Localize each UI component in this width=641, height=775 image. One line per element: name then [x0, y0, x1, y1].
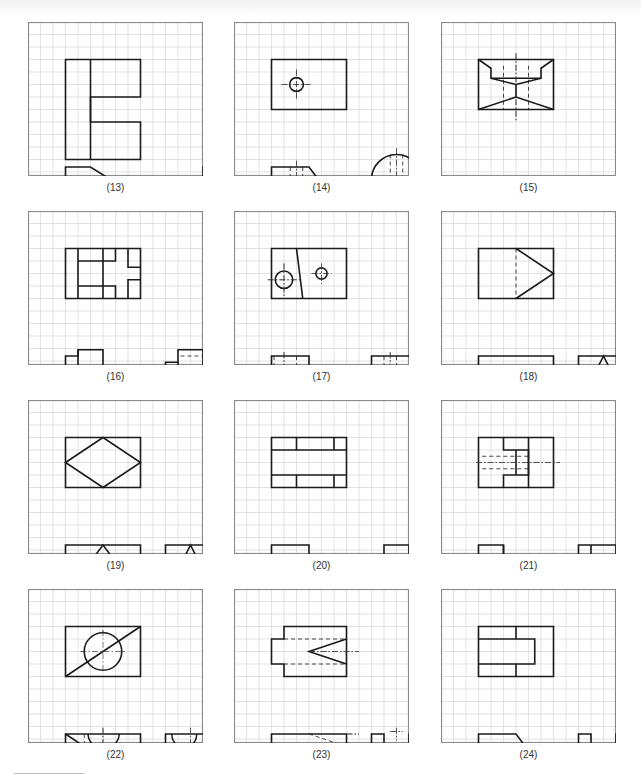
- visible-edge: [128, 249, 141, 268]
- grid-lines: [234, 400, 409, 554]
- exercise-number-label: (15): [441, 182, 616, 193]
- visible-edge: [166, 545, 204, 554]
- exercise-panel: [28, 400, 203, 554]
- exercise-number-label: (19): [28, 560, 203, 571]
- visible-edge: [166, 350, 204, 365]
- grid-lines: [441, 22, 616, 176]
- grid-lines: [441, 211, 616, 365]
- exercise-number-label: (18): [441, 371, 616, 382]
- projection-drawing: [441, 400, 616, 554]
- visible-edge: [372, 734, 410, 743]
- projection-drawing: [234, 22, 409, 176]
- page-footer-rule: [14, 773, 84, 774]
- projection-drawing: [441, 589, 616, 743]
- exercise-panel: [234, 211, 409, 365]
- exercise-panel: [28, 211, 203, 365]
- exercise-panel: [441, 22, 616, 176]
- projection-drawing: [234, 211, 409, 365]
- visible-edge: [272, 545, 347, 554]
- projection-drawing: [28, 211, 203, 365]
- exercise-number-label: (17): [234, 371, 409, 382]
- grid-lines: [28, 400, 203, 554]
- exercise-panel: [234, 589, 409, 743]
- exercise-panel: [441, 589, 616, 743]
- exercise-number-label: (14): [234, 182, 409, 193]
- exercise-number-label: (23): [234, 749, 409, 760]
- visible-edge: [166, 545, 204, 554]
- visible-edge: [88, 734, 119, 743]
- grid-lines: [28, 22, 203, 176]
- exercise-number-label: (24): [441, 749, 616, 760]
- exercise-panel: [234, 22, 409, 176]
- projection-drawing: [441, 22, 616, 176]
- projection-drawing: [234, 400, 409, 554]
- projection-drawing: [28, 22, 203, 176]
- exercise-panel: [28, 589, 203, 743]
- visible-edge: [579, 545, 617, 554]
- visible-edge: [579, 734, 617, 743]
- visible-edge: [372, 545, 410, 554]
- exercise-number-label: (21): [441, 560, 616, 571]
- visible-edge: [579, 356, 617, 365]
- projection-drawing: [28, 589, 203, 743]
- visible-edge: [579, 545, 592, 554]
- exercise-number-label: (16): [28, 371, 203, 382]
- projection-drawing: [234, 589, 409, 743]
- visible-edge: [78, 249, 116, 262]
- visible-edge: [128, 280, 141, 299]
- visible-edge: [78, 286, 116, 299]
- page-top-shading: [0, 0, 641, 16]
- projection-drawing: [28, 400, 203, 554]
- grid-lines: [234, 211, 409, 365]
- exercise-panel: [441, 211, 616, 365]
- projection-drawing: [441, 211, 616, 365]
- exercise-number-label: (13): [28, 182, 203, 193]
- exercise-panel: [28, 22, 203, 176]
- exercise-panel: [234, 400, 409, 554]
- grid-lines: [441, 589, 616, 743]
- exercise-number-label: (20): [234, 560, 409, 571]
- visible-edge: [272, 356, 347, 365]
- visible-edge: [66, 350, 141, 365]
- hidden-line: [309, 734, 347, 743]
- grid-lines: [234, 22, 409, 176]
- visible-edge: [579, 356, 617, 365]
- exercise-number-label: (22): [28, 749, 203, 760]
- grid-lines: [234, 589, 409, 743]
- exercise-panel: [441, 400, 616, 554]
- visible-edge: [172, 734, 197, 743]
